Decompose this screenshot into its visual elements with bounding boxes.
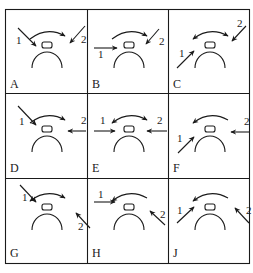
dome-icon	[114, 126, 144, 152]
rotation-arrow-icon	[193, 194, 228, 201]
panel-d: 12D	[10, 106, 87, 175]
panel-c: 12C	[173, 17, 246, 91]
rotation-arrow-icon	[193, 116, 228, 123]
arrow-1-label: 1	[16, 34, 22, 46]
arrow-1-label: 1	[98, 48, 104, 60]
arrow-1-label: 1	[177, 132, 183, 144]
panel-h: 12H	[92, 188, 166, 260]
panel-b: 12B	[92, 29, 165, 91]
arrow-2-label: 2	[157, 114, 163, 126]
rotation-arrow-icon	[30, 194, 65, 201]
rotation-arrow-icon	[112, 194, 147, 201]
panel-label: B	[92, 77, 100, 91]
dome-icon	[32, 126, 62, 152]
panel-e: 12E	[92, 114, 167, 175]
panel-label: E	[92, 161, 99, 175]
panel-label: A	[10, 77, 19, 91]
rotation-arrow-icon	[112, 32, 147, 39]
arrow-2-label: 2	[246, 204, 252, 216]
dome-icon	[114, 204, 144, 230]
arrow-1-label: 1	[22, 191, 28, 203]
dome-icon	[195, 42, 225, 68]
rotation-arrow-icon	[193, 32, 228, 39]
dome-icon	[114, 42, 144, 68]
force-arrow-2-icon	[146, 29, 159, 44]
arrow-2-label: 2	[159, 35, 165, 47]
rotation-arrow-icon	[30, 116, 65, 123]
arrow-2-label: 2	[244, 115, 250, 127]
figure-grid: 12A12B12C12D12E12F12G12H12J	[0, 0, 253, 273]
arrow-2-label: 2	[81, 114, 87, 126]
arrow-1-label: 1	[19, 115, 25, 127]
arrow-2-label: 2	[81, 33, 87, 45]
arrow-2-label: 2	[78, 220, 84, 232]
panel-j: 12J	[173, 194, 252, 260]
panel-label: F	[173, 161, 180, 175]
dome-icon	[32, 42, 62, 68]
panel-label: C	[173, 77, 181, 91]
rotation-arrow-icon	[112, 116, 147, 123]
arrow-2-label: 2	[237, 17, 243, 29]
arrow-2-label: 2	[160, 208, 166, 220]
arrow-1-label: 1	[98, 188, 104, 200]
arrow-1-label: 1	[100, 114, 106, 126]
panel-f: 12F	[173, 115, 250, 175]
panel-g: 12G	[10, 185, 90, 260]
dome-icon	[32, 204, 62, 230]
panel-label: D	[10, 161, 19, 175]
arrow-1-label: 1	[179, 47, 185, 59]
panel-label: G	[10, 246, 19, 260]
panel-label: J	[173, 246, 178, 260]
panel-label: H	[92, 246, 101, 260]
rotation-arrow-icon	[30, 32, 65, 39]
arrow-1-label: 1	[177, 204, 183, 216]
dome-icon	[195, 204, 225, 230]
panel-a: 12A	[10, 26, 87, 91]
dome-icon	[195, 126, 225, 152]
